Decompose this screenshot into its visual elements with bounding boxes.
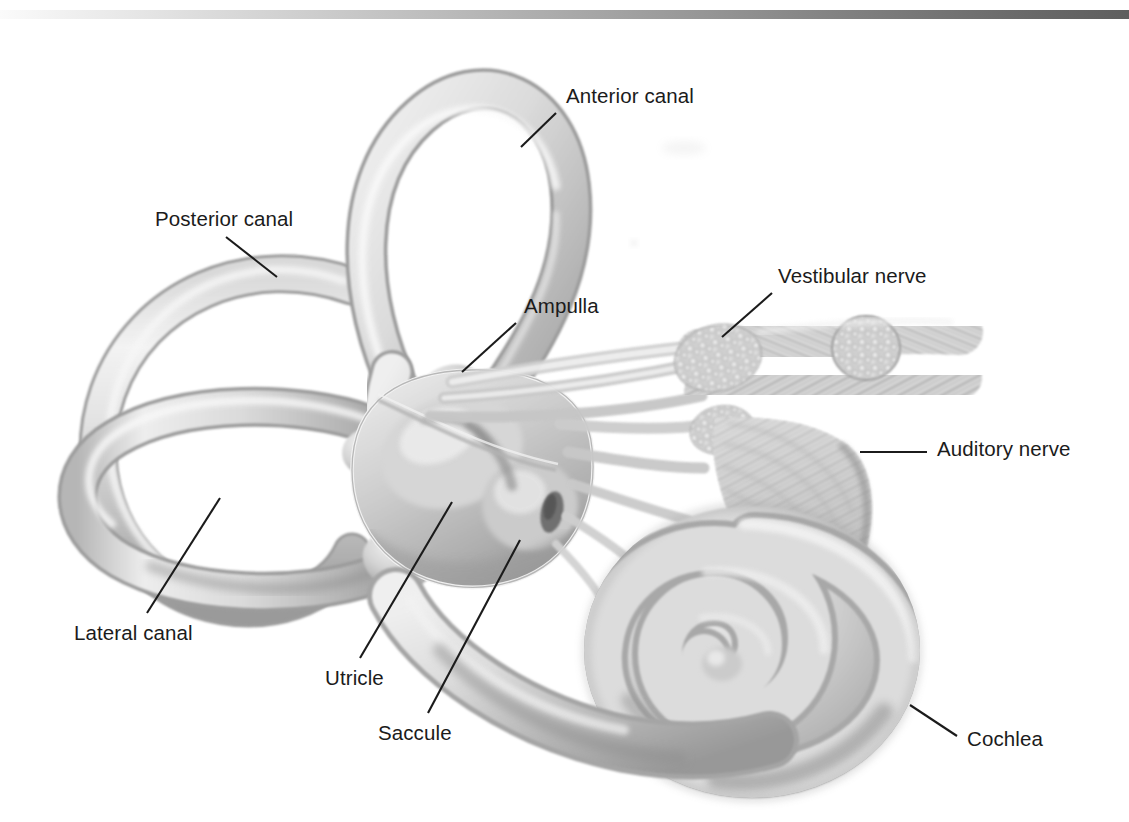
label-lateral-canal: Lateral canal [74,623,193,644]
inner-ear-figure: Anterior canal Posterior canal Ampulla V… [0,0,1129,822]
label-vestibular-nerve: Vestibular nerve [778,266,927,287]
label-utricle: Utricle [325,668,384,689]
label-saccule: Saccule [378,723,452,744]
label-ampulla: Ampulla [524,296,599,317]
scan-artifacts [630,141,706,247]
label-cochlea: Cochlea [967,729,1043,750]
inner-ear-illustration [0,0,1129,822]
label-anterior-canal: Anterior canal [566,86,694,107]
label-posterior-canal: Posterior canal [155,209,293,230]
label-auditory-nerve: Auditory nerve [937,439,1071,460]
vestibule-structure [352,370,593,587]
